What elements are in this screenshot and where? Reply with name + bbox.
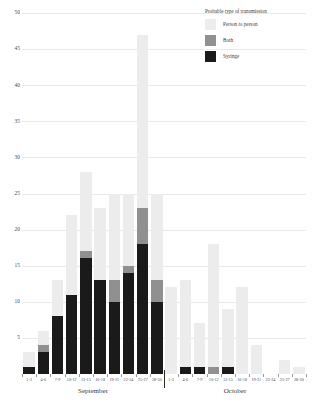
x-axis-tick — [192, 374, 193, 377]
legend-swatch-both — [205, 35, 216, 46]
bar-segment-syringe — [52, 316, 63, 374]
bar-segment-syringe — [151, 302, 162, 374]
y-axis-tick-label: 25 — [14, 191, 20, 196]
x-axis-category-label: 25-27 — [280, 378, 290, 382]
bar-segment-person-to-person — [23, 352, 34, 366]
legend-title: Probable type of transmission — [205, 8, 321, 14]
bar — [23, 352, 34, 374]
bar-segment-person-to-person — [38, 331, 49, 345]
x-axis-category-label: 28-30 — [152, 378, 162, 382]
x-axis-tick — [150, 374, 151, 377]
x-axis: 1-34-67-910-1213-1516-1819-2122-2425-272… — [22, 374, 306, 408]
month-label: October — [224, 387, 247, 395]
bar — [222, 309, 233, 374]
bar-segment-person-to-person — [293, 367, 304, 374]
x-axis-tick — [36, 374, 37, 377]
x-axis-tick — [22, 374, 23, 377]
x-axis-category-label: 16-18 — [237, 378, 247, 382]
x-axis-tick — [50, 374, 51, 377]
bar — [251, 345, 262, 374]
y-axis-tick-label: 40 — [14, 83, 20, 88]
bar-segment-both — [208, 367, 219, 374]
bar-segment-person-to-person — [208, 244, 219, 367]
legend: Probable type of transmission Person to … — [205, 8, 321, 66]
bar-segment-syringe — [66, 295, 77, 374]
x-axis-category-label: 19-21 — [109, 378, 119, 382]
bar-segment-both — [137, 208, 148, 244]
legend-item: Syringe — [205, 50, 321, 62]
y-axis-tick-label: 20 — [14, 227, 20, 232]
bar — [123, 194, 134, 375]
bar-segment-person-to-person — [137, 35, 148, 208]
legend-items: Person to personBothSyringe — [205, 18, 321, 62]
x-axis-category-label: 10-12 — [209, 378, 219, 382]
bar — [180, 280, 191, 374]
bar-segment-syringe — [80, 258, 91, 374]
x-axis-category-label: 1-3 — [26, 378, 32, 382]
x-axis-tick — [107, 374, 108, 377]
bar-segment-person-to-person — [251, 345, 262, 374]
bar-segment-person-to-person — [80, 172, 91, 251]
month-divider — [164, 370, 165, 388]
bar-segment-person-to-person — [151, 194, 162, 281]
x-axis-tick — [278, 374, 279, 377]
bar — [137, 35, 148, 374]
x-axis-category-label: 7-9 — [197, 378, 203, 382]
bar — [151, 194, 162, 375]
x-axis-category-label: 22-24 — [266, 378, 276, 382]
bar-segment-person-to-person — [109, 194, 120, 281]
y-axis-tick-label: 35 — [14, 119, 20, 124]
bar-segment-syringe — [137, 244, 148, 374]
bar-segment-syringe — [180, 367, 191, 374]
bar-segment-person-to-person — [165, 287, 176, 374]
bar-segment-person-to-person — [222, 309, 233, 367]
bar — [293, 367, 304, 374]
bar-segment-syringe — [222, 367, 233, 374]
bar-segment-both — [123, 266, 134, 273]
bar-segment-syringe — [123, 273, 134, 374]
x-axis-category-label: 4-6 — [183, 378, 189, 382]
bar — [279, 360, 290, 374]
x-axis-category-label: 25-27 — [138, 378, 148, 382]
x-axis-tick — [292, 374, 293, 377]
bar-segment-both — [80, 251, 91, 258]
bar-segment-syringe — [94, 280, 105, 374]
legend-swatch-syringe — [205, 51, 216, 62]
bar-segment-person-to-person — [180, 280, 191, 367]
x-axis-tick — [306, 374, 307, 377]
x-axis-tick — [93, 374, 94, 377]
y-axis-tick-label: 50 — [14, 10, 20, 15]
x-axis-category-label: 13-15 — [81, 378, 91, 382]
x-axis-tick — [249, 374, 250, 377]
bar — [165, 287, 176, 374]
bar — [52, 280, 63, 374]
x-axis-category-label: 10-12 — [67, 378, 77, 382]
bar-segment-syringe — [23, 367, 34, 374]
bar-segment-both — [38, 345, 49, 352]
legend-label: Person to person — [223, 21, 258, 27]
bar — [236, 287, 247, 374]
y-axis-tick-label: 30 — [14, 155, 20, 160]
x-axis-category-label: 13-15 — [223, 378, 233, 382]
x-axis-tick — [121, 374, 122, 377]
x-axis-tick — [136, 374, 137, 377]
bar — [66, 215, 77, 374]
y-axis-tick-label: 5 — [17, 335, 20, 340]
bar — [109, 194, 120, 375]
bar-segment-person-to-person — [236, 287, 247, 374]
x-axis-tick — [79, 374, 80, 377]
bar-segment-syringe — [109, 302, 120, 374]
x-axis-category-label: 7-9 — [55, 378, 61, 382]
bar-segment-person-to-person — [194, 323, 205, 366]
bar — [208, 244, 219, 374]
legend-label: Both — [223, 37, 233, 43]
epidemic-curve-chart: 5101520253035404550 1-34-67-910-1213-151… — [0, 0, 321, 408]
bar-segment-person-to-person — [279, 360, 290, 374]
bar — [194, 323, 205, 374]
bar-segment-syringe — [194, 367, 205, 374]
y-axis-tick-label: 10 — [14, 299, 20, 304]
x-axis-tick — [263, 374, 264, 377]
bar-segment-both — [151, 280, 162, 302]
x-axis-tick — [235, 374, 236, 377]
y-axis-tick-label: 45 — [14, 46, 20, 51]
